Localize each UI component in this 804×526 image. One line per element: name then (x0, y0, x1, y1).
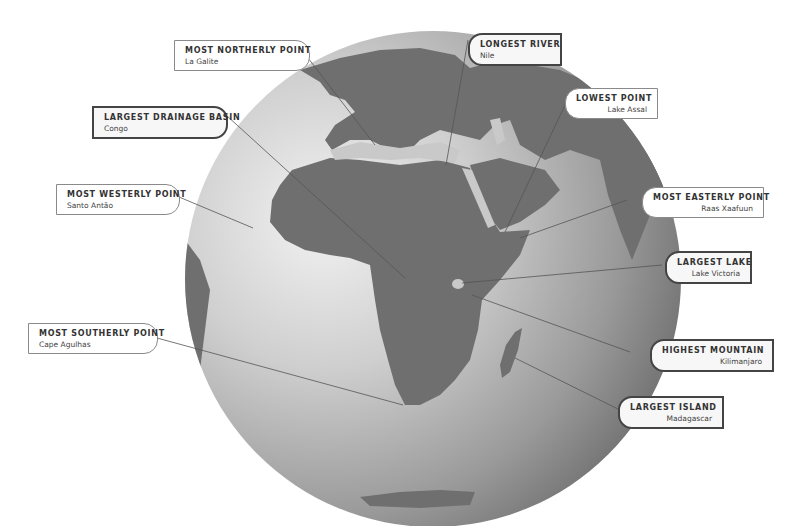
callout-most-westerly-point: MOST WESTERLY POINT Santo Antão (56, 184, 180, 215)
callout-title: HIGHEST MOUNTAIN (662, 345, 762, 356)
callout-largest-drainage-basin: LARGEST DRAINAGE BASIN Congo (92, 106, 228, 139)
lake-victoria-shape (452, 279, 464, 289)
callout-largest-island: LARGEST ISLAND Madagascar (618, 396, 724, 429)
callout-title: LARGEST LAKE (677, 257, 740, 268)
callout-value: Lake Victoria (677, 268, 740, 279)
callout-lowest-point: LOWEST POINT Lake Assal (565, 88, 658, 119)
callout-value: Raas Xaafuun (653, 203, 753, 214)
callout-value: Kilimanjaro (662, 356, 762, 367)
callout-title: LOWEST POINT (576, 93, 647, 104)
callout-most-easterly-point: MOST EASTERLY POINT Raas Xaafuun (642, 187, 764, 218)
callout-title: MOST EASTERLY POINT (653, 192, 753, 203)
callout-value: Nile (480, 50, 550, 61)
callout-value: Santo Antão (67, 200, 169, 211)
callout-value: Cape Agulhas (39, 339, 147, 350)
callout-title: LARGEST ISLAND (630, 402, 712, 413)
callout-value: Lake Assal (576, 104, 647, 115)
callout-most-southerly-point: MOST SOUTHERLY POINT Cape Agulhas (28, 323, 158, 354)
callout-title: MOST WESTERLY POINT (67, 189, 169, 200)
callout-value: La Galite (185, 56, 299, 67)
callout-title: LONGEST RIVER (480, 39, 550, 50)
callout-longest-river: LONGEST RIVER Nile (468, 33, 562, 66)
callout-title: LARGEST DRAINAGE BASIN (104, 112, 216, 123)
callout-title: MOST NORTHERLY POINT (185, 45, 299, 56)
callout-most-northerly-point: MOST NORTHERLY POINT La Galite (174, 40, 310, 71)
callout-largest-lake: LARGEST LAKE Lake Victoria (665, 251, 752, 284)
callout-title: MOST SOUTHERLY POINT (39, 328, 147, 339)
callout-highest-mountain: HIGHEST MOUNTAIN Kilimanjaro (650, 339, 774, 372)
callout-value: Madagascar (630, 413, 712, 424)
callout-value: Congo (104, 123, 216, 134)
